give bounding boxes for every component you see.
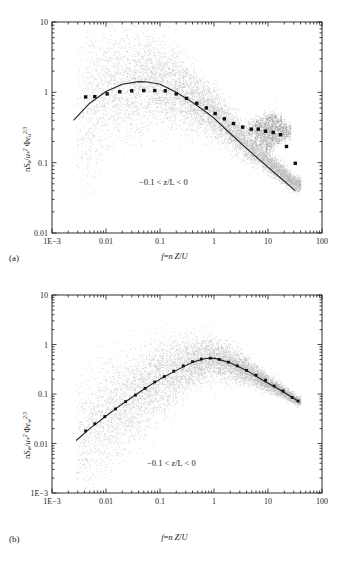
data-marker [182,364,185,367]
ylabel-b-u-sub: * [26,437,32,440]
data-marker [272,131,275,134]
data-marker [142,89,145,92]
y-tick-label: 0.1 [38,390,48,399]
ylabel-b-phi: Φ [22,426,32,432]
xlabel-b-U: U [182,532,188,542]
xlabel-b-n: n [168,532,172,542]
x-tick-label: 100 [316,237,328,246]
data-marker [285,145,288,148]
ylabel-b-S: S [22,451,32,455]
data-marker [164,89,167,92]
data-marker [291,396,294,399]
panel-a: 1E−30.010.11101001010.10.01 nSu/u*2 Φεu2… [0,0,349,281]
data-marker [124,400,127,403]
data-marker [191,360,194,363]
data-marker [245,369,248,372]
data-marker [218,358,221,361]
data-marker [250,127,253,130]
data-marker [241,125,244,128]
ylabel-a-eps: ε [22,137,32,140]
ylabel-a-eps-sub: u [26,134,32,137]
data-marker [227,361,230,364]
panel-b-tag: (b) [9,534,20,544]
data-marker [200,358,203,361]
y-tick-label: 1 [44,88,48,97]
figure-container: 1E−30.010.11101001010.10.01 nSu/u*2 Φεu2… [0,0,349,562]
data-marker [93,95,96,98]
y-tick-label: 0.1 [38,159,48,168]
y-tick-label: 10 [40,291,48,300]
data-marker [118,90,121,93]
data-marker [134,394,137,397]
ylabel-a-slash: / [22,158,32,160]
x-tick-label: 0.01 [99,237,113,246]
x-tick-label: 1 [212,237,216,246]
x-tick-label: 0.1 [155,237,165,246]
data-marker [195,102,198,105]
data-marker [257,127,260,130]
x-tick-label: 100 [316,497,328,506]
data-marker [273,385,276,388]
ylabel-b-eps-sup: 2/3 [22,412,28,419]
tick-labels: 1E−30.010.11101001010.10.011E−3 [31,291,328,506]
panel-a-tag: (a) [9,253,19,263]
panel-b-x-axis-label: f=n Z/U [0,532,349,542]
data-marker [163,375,166,378]
ylabel-a-n: n [22,168,32,172]
data-marker [105,92,108,95]
panel-b-plot: 1E−30.010.11101001010.10.011E−3 [0,281,349,562]
y-tick-label: 1E−3 [31,489,48,498]
ylabel-b-slash: / [22,444,32,446]
data-marker [223,117,226,120]
ylabel-a-S-sub: u [26,161,32,164]
data-marker [213,112,216,115]
x-tick-label: 1 [212,497,216,506]
ylabel-a-eps-sup: 2/3 [22,127,28,134]
panel-b-annotation: −0.1 < z/L < 0 [147,458,196,468]
y-tick-label: 0.01 [34,440,48,449]
data-marker [294,162,297,165]
panel-a-x-axis-label: f=n Z/U [0,251,349,261]
ylabel-b-u: u [22,440,32,444]
ylabel-a-S: S [22,164,32,168]
y-tick-label: 1 [44,341,48,350]
panel-b: 1E−30.010.11101001010.10.011E−3 [0,281,349,562]
data-marker [153,381,156,384]
ylabel-b-S-sub: w [26,447,32,451]
x-tick-label: 1E−3 [43,237,60,246]
panel-b-y-axis-label: nSw/u*2 Φεw2/3 [22,412,32,459]
data-marker [84,95,87,98]
data-marker [255,374,258,377]
x-tick-label: 10 [264,497,272,506]
data-marker [130,89,133,92]
data-marker [205,106,208,109]
data-marker [264,379,267,382]
ylabel-b-eps-sub: w [26,419,32,423]
ylabel-b-eps: ε [22,423,32,426]
ylabel-a-phi: Φ [22,140,32,146]
ylabel-a-u-sub: * [26,151,32,154]
bin-mean-markers [84,357,299,433]
data-marker [153,89,156,92]
x-tick-label: 0.01 [99,497,113,506]
data-marker [236,364,239,367]
y-tick-label: 0.01 [34,229,48,238]
data-marker [297,400,300,403]
data-marker [279,133,282,136]
x-tick-label: 10 [264,237,272,246]
xlabel-a-U: U [182,251,188,261]
data-marker [103,415,106,418]
data-marker [93,422,96,425]
data-marker [282,390,285,393]
ylabel-b-u-sup: 2 [22,435,28,438]
x-tick-label: 1E−3 [43,497,60,506]
data-marker [84,429,87,432]
x-tick-label: 0.1 [155,497,165,506]
data-marker [114,408,117,411]
ylabel-a-u: u [22,154,32,158]
panel-a-y-axis-label: nSu/u*2 Φεu2/3 [22,127,32,172]
scatter-cloud [76,23,302,217]
ylabel-b-n: n [22,455,32,459]
xlabel-a-n: n [168,251,172,261]
data-marker [264,130,267,133]
